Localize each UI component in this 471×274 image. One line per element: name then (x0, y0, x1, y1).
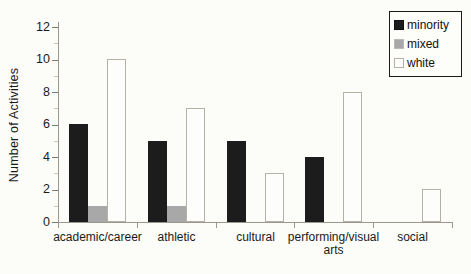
y-tick-mark (52, 27, 58, 28)
legend-label-white: white (407, 56, 435, 70)
bar-minority-athletic (148, 141, 167, 222)
y-tick-mark (52, 190, 58, 191)
bar-white-cultural (265, 173, 284, 222)
y-minor-tick-mark (54, 173, 58, 174)
x-tick-mark (58, 223, 59, 228)
x-tick-mark (373, 223, 374, 228)
y-tick-label: 8 (16, 86, 50, 99)
y-minor-tick-mark (54, 206, 58, 207)
y-tick-label: 0 (16, 216, 50, 229)
y-minor-tick-mark (54, 108, 58, 109)
y-tick-label: 2 (16, 183, 50, 196)
legend: minoritymixedwhite (389, 11, 462, 77)
x-tick-mark (452, 223, 453, 228)
y-tick-label: 4 (16, 151, 50, 164)
y-tick-label: 12 (16, 21, 50, 34)
bar-minority-performing-visual-arts (305, 157, 324, 222)
y-axis-line (58, 22, 59, 223)
y-minor-tick-mark (54, 76, 58, 77)
y-minor-tick-mark (54, 43, 58, 44)
x-tick-mark (216, 223, 217, 228)
bar-white-performing-visual-arts (343, 92, 362, 222)
y-tick-label: 10 (16, 53, 50, 66)
legend-swatch-minority-icon (394, 20, 404, 30)
y-tick-mark (52, 92, 58, 93)
legend-item-white: white (394, 53, 457, 72)
bar-mixed-academic-career (88, 206, 107, 222)
bar-white-athletic (186, 108, 205, 222)
y-tick-mark (52, 125, 58, 126)
bar-minority-cultural (227, 141, 246, 222)
legend-item-minority: minority (394, 15, 457, 34)
bar-white-academic-career (107, 59, 126, 222)
x-tick-mark (137, 223, 138, 228)
bar-white-social (422, 189, 441, 222)
x-category-label: social (362, 231, 463, 244)
x-tick-mark (294, 223, 295, 228)
x-axis-line (58, 222, 453, 223)
y-tick-label: 6 (16, 118, 50, 131)
legend-item-mixed: mixed (394, 34, 457, 53)
legend-label-mixed: mixed (407, 37, 439, 51)
y-tick-mark (52, 157, 58, 158)
bar-mixed-athletic (167, 206, 186, 222)
bar-chart-figure: Number of Activities 024681012academic/c… (0, 0, 471, 274)
y-tick-mark (52, 60, 58, 61)
y-minor-tick-mark (54, 141, 58, 142)
legend-swatch-white-icon (394, 58, 404, 68)
legend-label-minority: minority (407, 18, 449, 32)
bar-minority-academic-career (69, 124, 88, 222)
legend-swatch-mixed-icon (394, 39, 404, 49)
